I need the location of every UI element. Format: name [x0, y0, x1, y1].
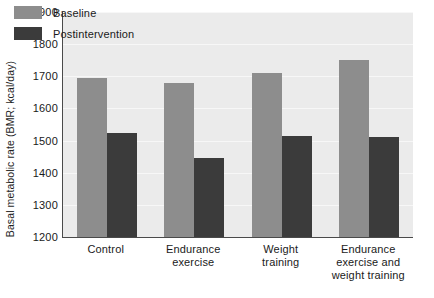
bar-baseline — [252, 73, 282, 237]
x-axis-label-line: training — [237, 256, 325, 269]
bar-baseline — [164, 83, 194, 237]
x-axis-label-line: Weight — [237, 243, 325, 256]
x-axis-label: Enduranceexercise andweight training — [325, 243, 413, 282]
bar-post — [107, 133, 137, 237]
legend-item: Baseline — [14, 6, 134, 19]
x-axis-label: Control — [62, 243, 150, 256]
y-axis-tick-label: 1700 — [14, 70, 58, 82]
x-axis-category-labels: ControlEnduranceexerciseWeighttrainingEn… — [62, 243, 412, 298]
bar-baseline — [77, 78, 107, 237]
bar-post — [369, 137, 399, 237]
y-axis-tick-label: 1400 — [14, 167, 58, 179]
bar-baseline — [339, 60, 369, 237]
y-axis-tick-label: 1500 — [14, 135, 58, 147]
y-axis-tick-label: 1200 — [14, 231, 58, 243]
chart-legend: BaselinePostintervention — [14, 6, 134, 48]
x-axis-label-line: exercise — [150, 256, 238, 269]
x-axis-label-line: Control — [62, 243, 150, 256]
x-axis-label: Enduranceexercise — [150, 243, 238, 269]
x-axis-label-line: Endurance — [325, 243, 413, 256]
bar-post — [194, 158, 224, 237]
bar-chart: Basal metabolic rate (BMR; kcal/day) 190… — [0, 0, 434, 298]
x-axis-label: Weighttraining — [237, 243, 325, 269]
x-axis-label-line: exercise and — [325, 256, 413, 269]
y-axis-tick-label: 1600 — [14, 102, 58, 114]
legend-swatch-baseline — [14, 6, 42, 19]
x-axis-label-line: Endurance — [150, 243, 238, 256]
x-axis-label-line: weight training — [325, 269, 413, 282]
legend-swatch-post — [14, 27, 42, 40]
legend-label: Postintervention — [53, 28, 134, 40]
legend-item: Postintervention — [14, 27, 134, 40]
legend-label: Baseline — [53, 7, 96, 19]
y-axis-tick-label: 1300 — [14, 199, 58, 211]
bar-post — [282, 136, 312, 237]
